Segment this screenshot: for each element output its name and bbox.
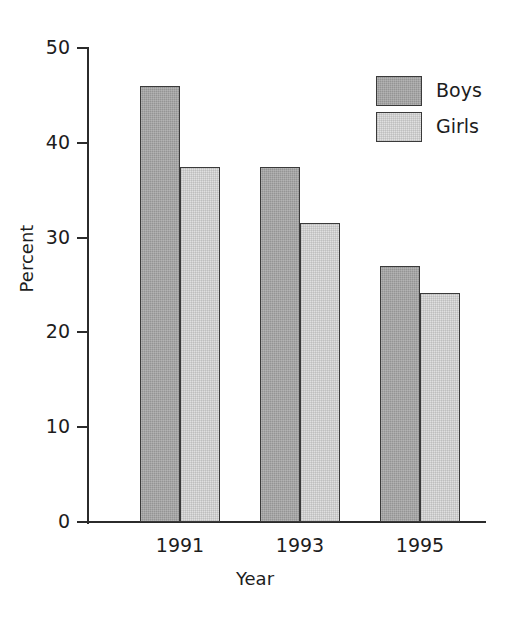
x-axis-tick-label: 1995 bbox=[365, 534, 475, 556]
bar-girls-1991 bbox=[180, 167, 220, 523]
legend-label: Girls bbox=[436, 113, 479, 139]
y-axis-tick bbox=[77, 426, 88, 428]
y-axis-tick-label: 50 bbox=[24, 38, 70, 57]
y-axis-tick bbox=[77, 521, 88, 523]
bar-boys-1991 bbox=[140, 86, 180, 522]
x-axis-title: Year bbox=[0, 568, 510, 589]
y-axis-tick bbox=[77, 142, 88, 144]
y-axis-tick-label: 0 bbox=[24, 512, 70, 531]
x-axis-tick-label: 1993 bbox=[245, 534, 355, 556]
legend-item: Girls bbox=[376, 110, 506, 146]
chart-legend: BoysGirls bbox=[376, 74, 506, 146]
legend-label: Boys bbox=[436, 77, 482, 103]
y-axis-title: Percent bbox=[16, 189, 37, 329]
legend-swatch-boys bbox=[376, 76, 422, 106]
bar-girls-1993 bbox=[300, 223, 340, 522]
bar-chart-figure: 01020304050 199119931995 Percent Year Bo… bbox=[0, 0, 510, 617]
legend-item: Boys bbox=[376, 74, 506, 110]
bar-girls-1995 bbox=[420, 293, 460, 522]
y-axis-tick bbox=[77, 47, 88, 49]
y-axis-tick-label: 10 bbox=[24, 417, 70, 436]
x-axis-tick-label: 1991 bbox=[125, 534, 235, 556]
y-axis-tick bbox=[77, 237, 88, 239]
legend-swatch-girls bbox=[376, 112, 422, 142]
bar-boys-1995 bbox=[380, 266, 420, 522]
y-axis-tick bbox=[77, 331, 88, 333]
bar-boys-1993 bbox=[260, 167, 300, 522]
y-axis-tick-label: 40 bbox=[24, 133, 70, 152]
